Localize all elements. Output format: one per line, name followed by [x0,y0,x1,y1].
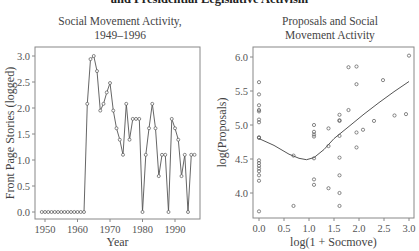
data-point [157,175,160,178]
data-point [128,138,131,141]
data-point [190,153,193,156]
x-tick-label: 2.0 [352,223,365,234]
scatter-point [312,123,315,126]
scatter-point [257,104,260,107]
data-point [193,153,196,156]
data-point [79,211,82,214]
y-tick-label: 2.0 [17,103,30,114]
scatter-point [338,156,341,159]
chart-canvas: 0.00.51.01.52.02.53.01950196019701980199… [0,0,419,251]
x-tick-label: 1.5 [327,223,340,234]
y-tick-label: 4.0 [235,188,248,199]
scatter-point [338,113,341,116]
data-point [86,102,89,105]
y-tick-label: 3.0 [17,51,30,62]
x-tick-label: 1.0 [302,223,315,234]
data-point [141,211,144,214]
scatter-point [312,135,315,138]
data-point [73,211,76,214]
scatter-point [327,127,330,130]
data-line [42,56,195,212]
scatter-point [355,83,358,86]
scatter-point [355,131,358,134]
scatter-point [393,114,396,117]
data-point [47,211,50,214]
data-point [151,102,154,105]
data-point [187,211,190,214]
y-tick-label: 0.0 [17,207,30,218]
y-tick-label: 6.0 [235,52,248,63]
scatter-point [347,108,350,111]
data-point [70,211,73,214]
scatter-point [355,65,358,68]
scatter-point [292,204,295,207]
data-point [177,138,180,141]
scatter-point [312,178,315,181]
scatter-point [257,93,260,96]
data-point [63,211,66,214]
data-point [144,153,147,156]
y-tick-label: 1.0 [17,155,30,166]
scatter-point [338,191,341,194]
data-point [99,109,102,112]
lowess-curve [259,82,409,160]
scatter-point [355,146,358,149]
data-point [89,58,92,61]
data-point [154,127,157,130]
data-point [53,211,56,214]
y-axis-label: Front Page Stories (logged) [3,67,17,199]
data-point [57,211,60,214]
data-point [135,117,138,120]
plot-frame [253,47,414,218]
data-point [148,127,151,130]
y-tick-label: 0.5 [17,181,30,192]
x-tick-label: 3.0 [402,223,415,234]
data-point [109,82,112,85]
data-point [180,175,183,178]
data-point [76,211,79,214]
data-point [50,211,53,214]
scatter-point [381,79,384,82]
scatter-point [372,119,375,122]
x-tick-label: 0.0 [252,223,265,234]
scatter-point [257,174,260,177]
y-tick-label: 5.5 [235,86,248,97]
x-axis-label: Year [106,235,128,249]
data-point [112,109,115,112]
data-point [60,211,63,214]
x-tick-label: 1970 [100,224,121,235]
right-scatter-chart: 4.04.55.05.56.00.00.51.01.52.02.53.0log(… [215,47,416,249]
x-tick-label: 1960 [67,224,88,235]
data-point [164,153,167,156]
data-point [125,102,128,105]
data-point [122,153,125,156]
left-line-chart: 0.00.51.01.52.02.53.01950196019701980199… [3,47,200,249]
data-point [118,138,121,141]
x-tick-label: 0.5 [277,223,290,234]
data-point [174,127,177,130]
scatter-point [327,187,330,190]
data-point [131,117,134,120]
y-tick-label: 1.5 [17,129,30,140]
data-point [115,127,118,130]
data-point [40,211,43,214]
x-tick-label: 2.5 [377,223,390,234]
data-point [138,117,141,120]
scatter-point [257,210,260,213]
data-point [44,211,47,214]
scatter-point [257,81,260,84]
data-point [66,211,69,214]
data-point [102,102,105,105]
scatter-point [361,128,364,131]
scatter-point [338,204,341,207]
scatter-point [407,54,410,57]
data-point [183,153,186,156]
scatter-point [404,113,407,116]
data-point [161,153,164,156]
scatter-point [257,179,260,182]
x-tick-label: 1950 [35,224,56,235]
scatter-point [338,174,341,177]
data-point [105,91,108,94]
x-tick-label: 1980 [132,224,153,235]
y-tick-label: 4.5 [235,154,248,165]
